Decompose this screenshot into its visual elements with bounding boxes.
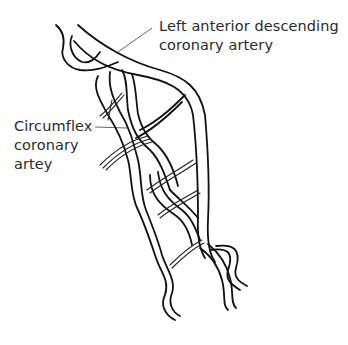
lad-leader-line: [118, 28, 152, 52]
circumflex-label: Circumflex coronary artey: [14, 117, 92, 174]
diagonal-branches: [122, 70, 200, 245]
thin-branches: [100, 93, 204, 268]
terminal-branches: [200, 244, 247, 310]
lad-label-line1: Left anterior descending: [159, 17, 339, 36]
coronary-artery-diagram: Left anterior descending coronary artery…: [0, 0, 348, 345]
circumflex-label-line3: artey: [14, 155, 92, 174]
circumflex-label-line1: Circumflex: [14, 117, 92, 136]
lad-label: Left anterior descending coronary artery: [159, 17, 339, 55]
circumflex-leader-line: [95, 127, 127, 128]
lad-label-line2: coronary artery: [159, 36, 339, 55]
circumflex-label-line2: coronary: [14, 136, 92, 155]
